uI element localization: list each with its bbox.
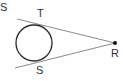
tangent-line-bottom <box>15 43 115 68</box>
label-corner-s: S <box>0 2 7 13</box>
label-t: T <box>37 8 44 19</box>
circle <box>16 25 52 61</box>
label-r: R <box>111 48 119 59</box>
diagram-canvas <box>0 0 123 81</box>
label-s: S <box>36 65 43 76</box>
tangent-line-top <box>17 19 115 43</box>
point-r-marker <box>113 41 117 45</box>
